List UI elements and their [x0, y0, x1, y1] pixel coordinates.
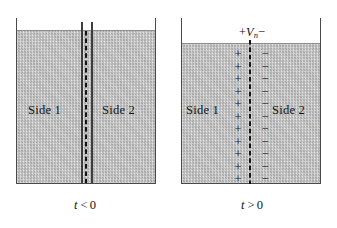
negative-charge-symbol: −	[261, 48, 268, 61]
negative-charge-symbol: −	[261, 73, 268, 86]
voltage-label: +Vn−	[167, 25, 337, 40]
caption-variable-after: t	[241, 198, 246, 212]
caption-variable-before: t	[74, 198, 79, 212]
region-label-side-1-before: Side 1	[28, 103, 61, 118]
caption-after: t>0	[167, 198, 337, 213]
panel-after: +++++++++++ −−−−−−−−−−− +Vn− Side 1 Side…	[167, 0, 337, 228]
region-label-side-2-before: Side 2	[102, 103, 135, 118]
membrane-solid-line-right	[91, 22, 93, 183]
membrane-dashed-line-after	[249, 40, 251, 184]
caption-relation-before: <	[79, 198, 90, 212]
caption-before: t<0	[0, 198, 170, 213]
voltage-leading-sign: +	[239, 25, 246, 39]
positive-charge-symbol: +	[234, 98, 241, 111]
positive-charge-column: +++++++++++	[230, 48, 246, 176]
physics-figure: Side 1 Side 2 t<0 +++++++++++ −−−−−−−−−−…	[0, 0, 337, 228]
negative-charge-symbol: −	[261, 148, 268, 161]
panel-before: Side 1 Side 2 t<0	[0, 0, 170, 228]
positive-charge-symbol: +	[234, 123, 241, 136]
membrane-dashed-line-before	[85, 31, 87, 183]
positive-charge-symbol: +	[234, 73, 241, 86]
region-label-side-2-after: Side 2	[272, 103, 305, 118]
positive-charge-symbol: +	[234, 173, 241, 186]
caption-value-after: 0	[257, 198, 263, 212]
positive-charge-symbol: +	[234, 148, 241, 161]
voltage-variable: V	[246, 25, 254, 39]
caption-relation-after: >	[246, 198, 257, 212]
negative-charge-column: −−−−−−−−−−−	[257, 48, 273, 176]
caption-value-before: 0	[90, 198, 96, 212]
negative-charge-symbol: −	[261, 173, 268, 186]
negative-charge-symbol: −	[261, 98, 268, 111]
voltage-trailing-sign: −	[258, 25, 265, 39]
positive-charge-symbol: +	[234, 48, 241, 61]
region-label-side-1-after: Side 1	[186, 103, 219, 118]
membrane-solid-line-left	[81, 22, 83, 183]
negative-charge-symbol: −	[261, 123, 268, 136]
